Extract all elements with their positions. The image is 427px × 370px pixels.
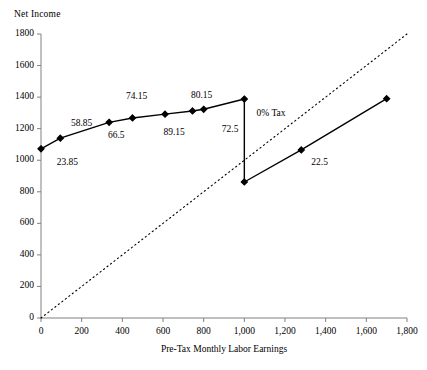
series-line [41, 34, 407, 318]
data-point-marker [241, 179, 247, 185]
data-point-marker [201, 106, 207, 112]
chart-annotation: 0% Tax [257, 108, 286, 118]
x-tick-label: 1,800 [382, 326, 427, 336]
data-point-marker [57, 135, 63, 141]
data-point-marker [129, 115, 135, 121]
data-point-label: 66.5 [92, 130, 140, 140]
net-income-chart: Net Income 02004006008001000120014001600… [0, 0, 427, 370]
y-tick-label: 600 [0, 217, 34, 227]
data-point-label: 80.15 [178, 90, 226, 100]
y-tick-label: 1400 [0, 91, 34, 101]
y-tick-label: 400 [0, 249, 34, 259]
data-point-label: 74.15 [113, 91, 161, 101]
data-point-label: 22.5 [296, 157, 344, 167]
y-tick-label: 1600 [0, 60, 34, 70]
data-point-marker [106, 119, 112, 125]
data-point-marker [384, 96, 390, 102]
y-tick-label: 1000 [0, 154, 34, 164]
data-point-marker [38, 146, 44, 152]
data-point-label: 89.15 [150, 127, 198, 137]
data-point-label: 58.85 [58, 118, 106, 128]
y-tick-label: 800 [0, 186, 34, 196]
data-point-label: 23.85 [43, 157, 91, 167]
data-point-marker [298, 147, 304, 153]
data-point-marker [162, 111, 168, 117]
data-point-marker [189, 108, 195, 114]
plot-canvas [0, 0, 427, 370]
y-tick-label: 200 [0, 280, 34, 290]
y-tick-label: 1200 [0, 123, 34, 133]
y-tick-label: 0 [0, 312, 34, 322]
data-point-label: 72.5 [206, 124, 254, 134]
x-axis-title: Pre-Tax Monthly Labor Earnings [94, 344, 354, 354]
y-tick-label: 1800 [0, 28, 34, 38]
